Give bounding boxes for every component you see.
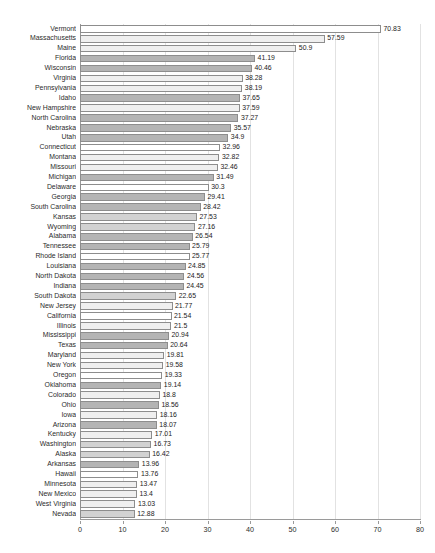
- x-tick-mark: [80, 521, 81, 524]
- bar: [80, 213, 197, 221]
- bar-value-label: 24.56: [187, 271, 204, 281]
- bar-value-label: 57.59: [327, 33, 344, 43]
- bar-value-label: 27.53: [200, 212, 217, 222]
- x-tick-mark: [208, 521, 209, 524]
- bar-row: Arkansas13.96: [0, 460, 435, 470]
- category-label: Tennessee: [0, 241, 76, 251]
- bar-row: New Jersey21.77: [0, 301, 435, 311]
- bar-value-label: 18.8: [162, 390, 175, 400]
- bar-row: New York19.58: [0, 361, 435, 371]
- bar: [80, 253, 190, 261]
- bar-row: Utah34.9: [0, 133, 435, 143]
- category-label: Maine: [0, 43, 76, 53]
- bar-value-label: 12.88: [137, 509, 154, 519]
- bar: [80, 431, 152, 439]
- bar: [80, 461, 139, 469]
- bar: [80, 322, 171, 330]
- x-tick-label: 30: [188, 525, 228, 534]
- bar: [80, 164, 218, 172]
- bar-value-label: 19.58: [166, 360, 183, 370]
- bar-value-label: 70.83: [384, 24, 401, 34]
- bar-value-label: 26.54: [195, 231, 212, 241]
- bar-row: Delaware30.3: [0, 182, 435, 192]
- bar-value-label: 13.96: [142, 459, 159, 469]
- bar: [80, 104, 240, 112]
- bar-row: Kansas27.53: [0, 212, 435, 222]
- category-label: Utah: [0, 132, 76, 142]
- category-label: Alabama: [0, 231, 76, 241]
- bar-value-label: 20.94: [171, 330, 188, 340]
- bar-row: California21.54: [0, 311, 435, 321]
- category-label: Michigan: [0, 172, 76, 182]
- bar-value-label: 28.42: [203, 202, 220, 212]
- x-tick-label: 0: [60, 525, 100, 534]
- x-tick-mark: [420, 521, 421, 524]
- bar: [80, 65, 252, 73]
- bar: [80, 332, 169, 340]
- bar-value-label: 34.9: [231, 132, 244, 142]
- bar: [80, 263, 186, 271]
- category-label: Washington: [0, 439, 76, 449]
- bar-value-label: 38.28: [245, 73, 262, 83]
- bar: [80, 203, 201, 211]
- category-label: Texas: [0, 340, 76, 350]
- category-label: Nevada: [0, 509, 76, 519]
- category-label: New York: [0, 360, 76, 370]
- bar-row: New Hampshire37.59: [0, 103, 435, 113]
- bar-row: Kentucky17.01: [0, 430, 435, 440]
- bar-value-label: 19.81: [167, 350, 184, 360]
- bar-value-label: 50.9: [299, 43, 312, 53]
- bar-row: West Virginia13.03: [0, 499, 435, 509]
- bar: [80, 352, 164, 360]
- category-label: Ohio: [0, 400, 76, 410]
- bar-value-label: 24.45: [186, 281, 203, 291]
- category-label: Louisiana: [0, 261, 76, 271]
- bar: [80, 223, 195, 231]
- x-tick-label: 80: [400, 525, 435, 534]
- bar-value-label: 22.65: [179, 291, 196, 301]
- category-label: Minnesota: [0, 479, 76, 489]
- category-label: North Carolina: [0, 113, 76, 123]
- bar-row: Oklahoma19.14: [0, 380, 435, 390]
- bar: [80, 500, 135, 508]
- x-tick-mark: [165, 521, 166, 524]
- bar-chart: Vermont70.83Massachusetts57.59Maine50.9F…: [0, 0, 435, 553]
- category-label: Missouri: [0, 162, 76, 172]
- category-label: Montana: [0, 152, 76, 162]
- bar-row: Alaska16.42: [0, 450, 435, 460]
- bar: [80, 421, 157, 429]
- bar-value-label: 18.16: [160, 410, 177, 420]
- x-axis: 01020304050607080: [0, 521, 435, 541]
- bar-value-label: 13.4: [139, 489, 152, 499]
- bar: [80, 55, 255, 63]
- bar-row: Ohio18.56: [0, 400, 435, 410]
- category-label: Mississippi: [0, 330, 76, 340]
- category-label: Rhode Island: [0, 251, 76, 261]
- bar-value-label: 38.19: [245, 83, 262, 93]
- category-label: Pennsylvania: [0, 83, 76, 93]
- x-tick-label: 50: [273, 525, 313, 534]
- bar-value-label: 29.41: [207, 192, 224, 202]
- bar-value-label: 19.33: [165, 370, 182, 380]
- bar-value-label: 37.65: [243, 93, 260, 103]
- bar-value-label: 32.96: [223, 142, 240, 152]
- bar-value-label: 40.46: [254, 63, 271, 73]
- bar-row: Pennsylvania38.19: [0, 83, 435, 93]
- category-label: Nebraska: [0, 123, 76, 133]
- bar: [80, 302, 173, 310]
- bar-row: Mississippi20.94: [0, 331, 435, 341]
- bar-value-label: 24.85: [188, 261, 205, 271]
- x-tick-mark: [293, 521, 294, 524]
- bar-row: Indiana24.45: [0, 281, 435, 291]
- bar: [80, 411, 157, 419]
- bar: [80, 75, 243, 83]
- category-label: Indiana: [0, 281, 76, 291]
- bar: [80, 144, 220, 152]
- category-label: Kentucky: [0, 429, 76, 439]
- bar: [80, 312, 172, 320]
- bar-row: Rhode Island25.77: [0, 252, 435, 262]
- bar-row: Nevada12.88: [0, 509, 435, 519]
- category-label: Delaware: [0, 182, 76, 192]
- bar-row: Louisiana24.85: [0, 262, 435, 272]
- bar: [80, 174, 214, 182]
